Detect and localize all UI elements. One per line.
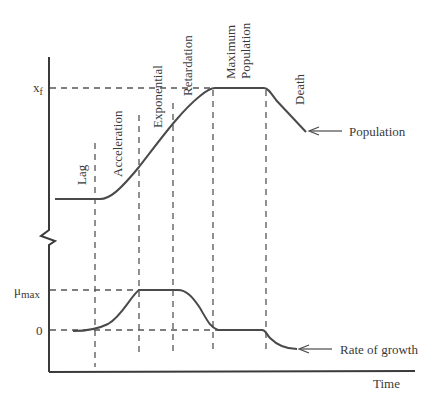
population-curve <box>55 88 306 199</box>
phase-label-death: Death <box>292 73 307 105</box>
population-curve-label: Population <box>349 124 406 139</box>
xf-label: xf <box>33 80 44 97</box>
growth-phase-diagram: xf μmax 0 Lag Acceleration Exponential R… <box>0 0 441 406</box>
mumax-label: μmax <box>14 283 40 300</box>
phase-label-retardation: Retardation <box>180 35 195 96</box>
phase-label-exponential: Exponential <box>150 65 165 128</box>
phase-label-lag: Lag <box>74 164 89 185</box>
rate-of-growth-arrow-icon <box>299 345 332 353</box>
population-arrow-icon <box>309 127 342 135</box>
phase-label-population: Population <box>238 22 253 79</box>
phase-label-maximum: Maximum <box>223 25 238 79</box>
x-axis <box>49 371 415 372</box>
rate-of-growth-curve <box>73 290 297 349</box>
phase-label-acceleration: Acceleration <box>110 110 125 177</box>
x-axis-label: Time <box>373 376 400 391</box>
zero-label: 0 <box>36 323 43 338</box>
y-axis-upper <box>41 57 55 372</box>
rate-of-growth-curve-label: Rate of growth <box>340 342 418 357</box>
